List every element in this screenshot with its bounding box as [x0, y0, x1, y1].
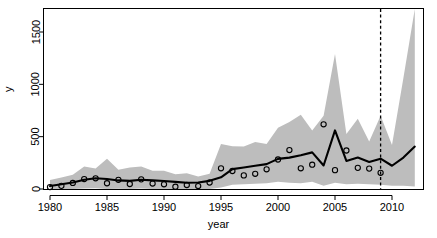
plot-svg: 050010001500 198019851990199520002005201…: [0, 0, 437, 238]
y-axis: 050010001500: [30, 20, 44, 192]
x-axis-tick-label: 1980: [38, 201, 62, 213]
uncertainty-band-group: [50, 9, 415, 189]
y-axis-tick-label: 1500: [30, 20, 42, 44]
x-axis-tick-label: 1995: [209, 201, 233, 213]
y-axis-tick-label: 500: [30, 127, 42, 145]
x-axis-tick-label: 1990: [152, 201, 176, 213]
uncertainty-band: [50, 9, 415, 189]
chart-figure: 050010001500 198019851990199520002005201…: [0, 0, 437, 238]
y-axis-tick-label: 1000: [30, 72, 42, 96]
y-axis-tick-label: 0: [30, 186, 42, 192]
x-axis-label: year: [0, 218, 437, 230]
x-axis: 1980198519901995200020052010: [38, 196, 404, 213]
x-axis-tick-label: 2005: [323, 201, 347, 213]
x-axis-tick-label: 2000: [266, 201, 290, 213]
x-axis-tick-label: 2010: [380, 201, 404, 213]
y-axis-label: y: [2, 87, 14, 93]
x-axis-tick-label: 1985: [95, 201, 119, 213]
